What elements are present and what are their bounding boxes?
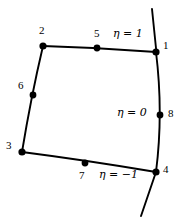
node-label-5: 5	[94, 28, 100, 39]
node-dot-4	[152, 168, 159, 175]
node-dot-3	[18, 148, 25, 155]
node-dot-8	[157, 112, 164, 119]
node-dot-7	[82, 160, 89, 167]
eta-label-middle: η = 0	[117, 107, 147, 118]
node-dot-6	[30, 92, 37, 99]
node-dot-1	[152, 48, 159, 55]
node-dot-5	[94, 45, 101, 52]
element-diagram-svg	[0, 0, 184, 223]
eta-label-bottom: η = −1	[99, 169, 138, 180]
node-label-4: 4	[163, 164, 169, 175]
node-label-7: 7	[79, 170, 85, 181]
curve-bottom-extension	[141, 172, 156, 216]
node-label-1: 1	[163, 40, 169, 51]
edge-left-2-6-3	[22, 46, 43, 152]
node-label-3: 3	[6, 140, 12, 151]
eta-label-top: η = 1	[113, 28, 143, 39]
node-label-8: 8	[168, 108, 174, 119]
figure-canvas: 1 2 3 4 5 6 7 8 η = 1 η = 0 η = −1	[0, 0, 184, 223]
node-label-2: 2	[39, 25, 45, 36]
curve-top-extension	[152, 9, 156, 52]
node-label-6: 6	[18, 80, 24, 91]
node-dot-2	[39, 42, 46, 49]
